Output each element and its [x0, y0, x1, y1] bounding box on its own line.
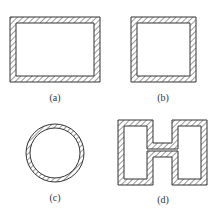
- panel-b-square-section: [131, 17, 196, 82]
- panel-a-label: (a): [49, 92, 60, 104]
- cross-sections-diagram: (a) (b) (c) (d): [0, 0, 222, 214]
- panel-c-circle-section: [26, 124, 84, 182]
- panel-a-rectangle-section: [10, 17, 100, 82]
- panel-b-label: (b): [157, 92, 169, 104]
- panel-c-label: (c): [49, 192, 60, 204]
- panel-d-h-section: [118, 120, 207, 185]
- panel-d-label: (d): [157, 194, 169, 206]
